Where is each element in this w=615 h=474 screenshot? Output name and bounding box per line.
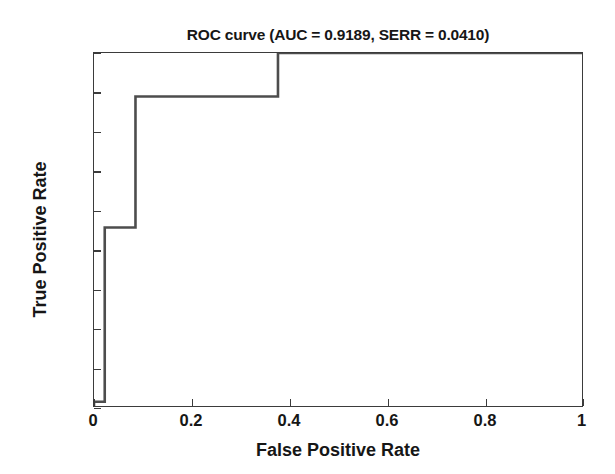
x-axis-label: False Positive Rate bbox=[93, 440, 583, 461]
xtick-mark-0.8 bbox=[486, 399, 487, 406]
ytick-mark-0.7 bbox=[94, 171, 101, 172]
xtick-label-0.2: 0.2 bbox=[180, 411, 203, 430]
ytick-mark-0.4 bbox=[94, 290, 101, 291]
ytick-mark-0.2 bbox=[94, 369, 101, 370]
xtick-label-0.6: 0.6 bbox=[376, 411, 399, 430]
ytick-mark-0.9 bbox=[94, 92, 101, 93]
xtick-mark-0 bbox=[94, 399, 95, 406]
xtick-mark-1 bbox=[583, 399, 584, 406]
plot-area bbox=[93, 52, 583, 407]
xtick-label-0.8: 0.8 bbox=[474, 411, 497, 430]
ytick-mark-1 bbox=[94, 53, 101, 54]
ytick-mark-0.1 bbox=[94, 408, 101, 409]
ytick-mark-0.3 bbox=[94, 329, 101, 330]
xtick-label-0.4: 0.4 bbox=[278, 411, 301, 430]
roc-curve-line bbox=[94, 53, 582, 406]
ytick-mark-0.5 bbox=[94, 250, 101, 251]
ytick-mark-0.8 bbox=[94, 132, 101, 133]
xtick-label-1: 1 bbox=[577, 411, 586, 430]
chart-title: ROC curve (AUC = 0.9189, SERR = 0.0410) bbox=[93, 26, 583, 44]
roc-curve-figure: ROC curve (AUC = 0.9189, SERR = 0.0410) … bbox=[0, 0, 615, 474]
xtick-mark-0.2 bbox=[192, 399, 193, 406]
y-axis-label: True Positive Rate bbox=[30, 40, 51, 440]
ytick-mark-0.6 bbox=[94, 211, 101, 212]
xtick-label-0: 0 bbox=[88, 411, 97, 430]
roc-step-polyline bbox=[94, 53, 582, 406]
xtick-mark-0.4 bbox=[290, 399, 291, 406]
xtick-mark-0.6 bbox=[388, 399, 389, 406]
